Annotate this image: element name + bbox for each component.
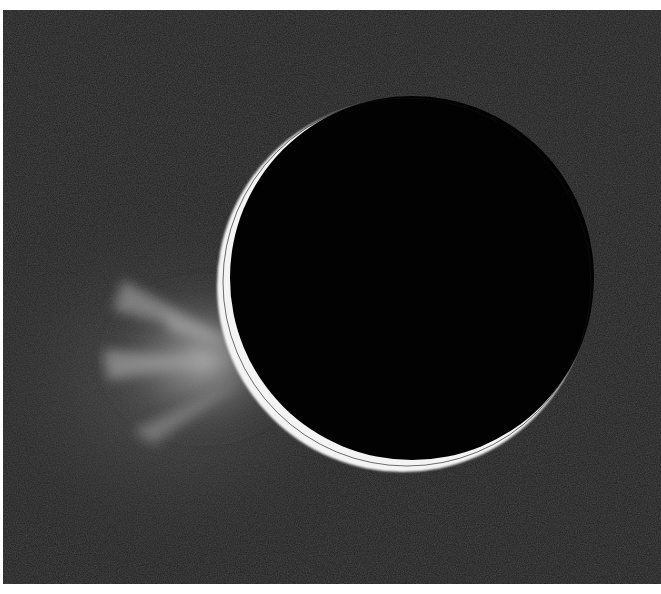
space-image: Backlit crescent moon with plumes	[3, 10, 661, 584]
moon-disk	[230, 96, 594, 460]
moon-scene	[3, 10, 661, 584]
